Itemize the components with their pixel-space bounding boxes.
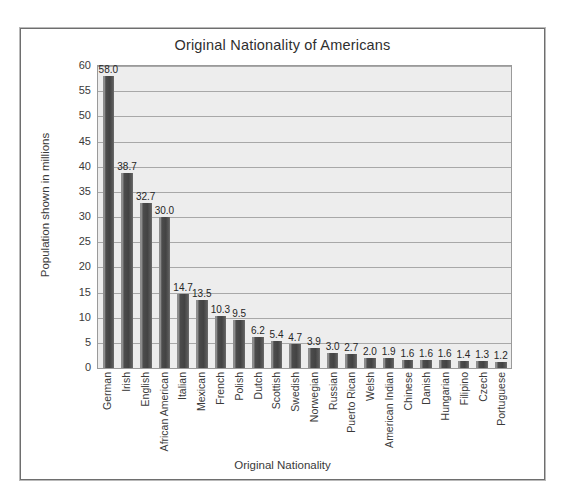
bar-value-label: 13.5 bbox=[192, 289, 211, 299]
bar-value-label: 5.4 bbox=[270, 330, 284, 340]
x-axis-tick-label: Chinese bbox=[402, 372, 413, 411]
x-axis-tick-label: African American bbox=[158, 372, 169, 451]
bar-slot: 5.4 bbox=[267, 66, 286, 368]
y-axis-tick-label: 10 bbox=[65, 311, 91, 323]
bar-slot: 58.0 bbox=[99, 66, 118, 368]
y-axis-tick-label: 60 bbox=[65, 59, 91, 71]
bar[interactable]: 1.9 bbox=[383, 358, 395, 368]
bar-value-label: 9.5 bbox=[232, 309, 246, 319]
y-axis-tick-label: 45 bbox=[65, 135, 91, 147]
bar-slot: 10.3 bbox=[211, 66, 230, 368]
x-axis-tick-label: French bbox=[215, 372, 226, 405]
x-axis-tick-label: Dutch bbox=[252, 372, 263, 399]
x-axis-tick-label: Norwegian bbox=[309, 372, 320, 422]
y-axis-tick-label: 5 bbox=[65, 336, 91, 348]
bar-slot: 1.6 bbox=[417, 66, 436, 368]
bar-slot: 13.5 bbox=[192, 66, 211, 368]
x-axis-tick-label: Danish bbox=[421, 372, 432, 405]
y-axis-tick-label: 0 bbox=[65, 361, 91, 373]
bar[interactable]: 1.2 bbox=[495, 362, 507, 368]
bar-slot: 2.0 bbox=[361, 66, 380, 368]
bar-value-label: 1.3 bbox=[475, 350, 489, 360]
y-axis-tick-label: 15 bbox=[65, 286, 91, 298]
y-axis-tick-label: 35 bbox=[65, 185, 91, 197]
bar[interactable]: 2.0 bbox=[364, 358, 376, 368]
bar-value-label: 10.3 bbox=[211, 305, 230, 315]
bar-value-label: 2.7 bbox=[344, 343, 358, 353]
bar-slot: 6.2 bbox=[249, 66, 268, 368]
bar[interactable]: 6.2 bbox=[252, 337, 264, 368]
bar-value-label: 3.0 bbox=[326, 342, 340, 352]
x-axis-tick-label: American Indian bbox=[384, 372, 395, 448]
x-axis-tick-label: Russian bbox=[327, 372, 338, 410]
x-axis-tick-label: Polish bbox=[233, 372, 244, 401]
bar[interactable]: 13.5 bbox=[196, 300, 208, 368]
x-axis-tick-label: Italian bbox=[177, 372, 188, 400]
bar-value-label: 1.9 bbox=[382, 347, 396, 357]
bar[interactable]: 1.6 bbox=[402, 360, 414, 368]
bar[interactable]: 10.3 bbox=[215, 316, 227, 368]
bar[interactable]: 32.7 bbox=[140, 203, 152, 368]
bar[interactable]: 3.9 bbox=[308, 348, 320, 368]
x-axis-tick-label: Welsh bbox=[365, 372, 376, 401]
bar-value-label: 1.2 bbox=[494, 351, 508, 361]
x-axis-tick-label: Mexican bbox=[196, 372, 207, 411]
bar-value-label: 2.0 bbox=[363, 347, 377, 357]
bar-slot: 30.0 bbox=[155, 66, 174, 368]
bar-value-label: 14.7 bbox=[173, 283, 192, 293]
bar-slot: 1.3 bbox=[473, 66, 492, 368]
bar[interactable]: 1.6 bbox=[439, 360, 451, 368]
bar-slot: 14.7 bbox=[174, 66, 193, 368]
bar-slot: 1.6 bbox=[435, 66, 454, 368]
x-axis-tick-label: German bbox=[102, 372, 113, 410]
bar[interactable]: 9.5 bbox=[233, 320, 245, 368]
bar-slot: 3.9 bbox=[305, 66, 324, 368]
bar-value-label: 32.7 bbox=[136, 192, 155, 202]
y-axis-tick-labels: 605550454035302520151050 bbox=[65, 65, 91, 369]
bar-value-label: 6.2 bbox=[251, 326, 265, 336]
bar-slot: 3.0 bbox=[323, 66, 342, 368]
bar-value-label: 4.7 bbox=[288, 333, 302, 343]
bar-slot: 9.5 bbox=[230, 66, 249, 368]
bar-slot: 4.7 bbox=[286, 66, 305, 368]
bar-slot: 1.2 bbox=[491, 66, 510, 368]
bar[interactable]: 1.3 bbox=[476, 361, 488, 368]
x-axis-title: Original Nationality bbox=[21, 459, 544, 471]
bar[interactable]: 14.7 bbox=[177, 294, 189, 368]
bar[interactable]: 30.0 bbox=[159, 217, 171, 368]
y-axis-tick-label: 20 bbox=[65, 260, 91, 272]
x-axis-tick-label: English bbox=[140, 372, 151, 406]
x-axis-tick-label: Swedish bbox=[290, 372, 301, 412]
x-axis-tick-label: Puerto Rican bbox=[346, 372, 357, 433]
y-axis-title: Population shown in millions bbox=[39, 115, 51, 295]
bar[interactable]: 1.6 bbox=[420, 360, 432, 368]
bar-slot: 1.6 bbox=[398, 66, 417, 368]
bar[interactable]: 1.4 bbox=[458, 361, 470, 368]
x-axis-tick-label: Portuguese bbox=[496, 372, 507, 426]
plot-area: 58.038.732.730.014.713.510.39.56.25.44.7… bbox=[97, 65, 512, 369]
bar[interactable]: 58.0 bbox=[103, 76, 115, 368]
bar-slot: 1.4 bbox=[454, 66, 473, 368]
bar-value-label: 1.4 bbox=[456, 350, 470, 360]
bar-value-label: 30.0 bbox=[155, 206, 174, 216]
bar[interactable]: 3.0 bbox=[327, 353, 339, 368]
bar-value-label: 1.6 bbox=[400, 349, 414, 359]
chart-frame: Original Nationality of Americans Popula… bbox=[20, 28, 545, 480]
bar-slot: 38.7 bbox=[118, 66, 137, 368]
x-axis-tick-label: Hungarian bbox=[440, 372, 451, 420]
y-axis-tick-label: 30 bbox=[65, 210, 91, 222]
x-axis-tick-label: Irish bbox=[121, 372, 132, 392]
bar[interactable]: 2.7 bbox=[345, 354, 357, 368]
bar[interactable]: 4.7 bbox=[289, 344, 301, 368]
y-axis-tick-label: 40 bbox=[65, 160, 91, 172]
bar-value-label: 58.0 bbox=[99, 65, 118, 75]
bar[interactable]: 38.7 bbox=[121, 173, 133, 368]
y-axis-tick-label: 55 bbox=[65, 84, 91, 96]
bar-series: 58.038.732.730.014.713.510.39.56.25.44.7… bbox=[98, 66, 511, 368]
bar-slot: 1.9 bbox=[379, 66, 398, 368]
bar-value-label: 38.7 bbox=[117, 162, 136, 172]
bar[interactable]: 5.4 bbox=[271, 341, 283, 368]
x-axis-tick-label: Czech bbox=[477, 372, 488, 402]
x-axis-tick-label: Scottish bbox=[271, 372, 282, 409]
y-axis-tick-label: 50 bbox=[65, 109, 91, 121]
